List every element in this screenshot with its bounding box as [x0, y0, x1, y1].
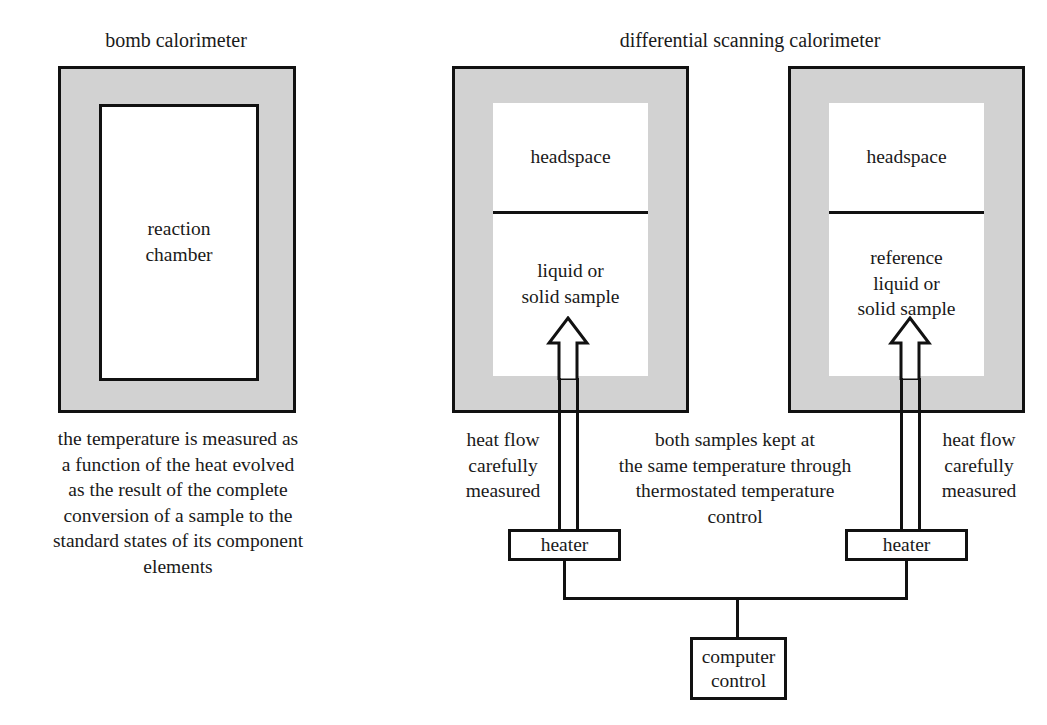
reaction-chamber-label: reaction chamber	[99, 216, 259, 267]
computer-control-label-line1: computer	[702, 645, 776, 669]
center-note-line: both samples kept at	[590, 427, 880, 453]
reaction-chamber-label-line2: chamber	[99, 242, 259, 268]
reference-heat-flow-arrow	[888, 316, 932, 380]
computer-control-label-line2: control	[702, 669, 776, 693]
reference-heater-to-bus-wire	[905, 561, 908, 600]
annotation-line: measured	[452, 478, 554, 504]
reference-heater-box: heater	[845, 529, 968, 561]
dsc-reference-label-line2: liquid or	[824, 271, 989, 297]
caption-line: standard states of its component	[8, 528, 348, 554]
dsc-reference-sample-label: reference liquid or solid sample	[824, 245, 989, 322]
sample-heat-flow-arrow	[546, 316, 590, 380]
sample-heater-label: heater	[541, 533, 589, 557]
sample-heat-flow-annotation: heat flow carefully measured	[452, 427, 554, 504]
annotation-line: heat flow	[452, 427, 554, 453]
dsc-sample-label-line2: solid sample	[488, 284, 653, 310]
calorimeter-diagram: bomb calorimeter reaction chamber the te…	[0, 0, 1047, 725]
annotation-line: carefully	[928, 453, 1030, 479]
dsc-title: differential scanning calorimeter	[560, 28, 940, 52]
dsc-reference-cell-divider	[829, 211, 984, 214]
center-note-line: control	[590, 504, 880, 530]
reaction-chamber-label-line1: reaction	[99, 216, 259, 242]
dsc-center-note: both samples kept at the same temperatur…	[590, 427, 880, 529]
dsc-sample-cell-divider	[493, 211, 648, 214]
bus-to-computer-wire	[736, 597, 739, 640]
dsc-reference-headspace-label: headspace	[829, 144, 984, 170]
annotation-line: carefully	[452, 453, 554, 479]
reference-heater-label: heater	[883, 533, 931, 557]
dsc-sample-label-line1: liquid or	[488, 258, 653, 284]
annotation-line: measured	[928, 478, 1030, 504]
sample-heater-to-bus-wire	[563, 561, 566, 600]
annotation-line: heat flow	[928, 427, 1030, 453]
reference-heat-flow-shaft-left	[900, 378, 903, 530]
bomb-calorimeter-title: bomb calorimeter	[34, 28, 318, 52]
caption-line: elements	[8, 554, 348, 580]
computer-control-label: computer control	[702, 645, 776, 693]
dsc-sample-label: liquid or solid sample	[488, 258, 653, 309]
caption-line: conversion of a sample to the	[8, 503, 348, 529]
center-note-line: thermostated temperature	[590, 478, 880, 504]
dsc-reference-label-line1: reference	[824, 245, 989, 271]
dsc-sample-headspace-label: headspace	[493, 144, 648, 170]
computer-control-box: computer control	[690, 637, 787, 700]
caption-line: as the result of the complete	[8, 477, 348, 503]
sample-heat-flow-shaft-left	[558, 378, 561, 530]
reference-heat-flow-annotation: heat flow carefully measured	[928, 427, 1030, 504]
sample-heat-flow-shaft-right	[576, 378, 579, 530]
bomb-calorimeter-caption: the temperature is measured as a functio…	[8, 426, 348, 579]
center-note-line: the same temperature through	[590, 453, 880, 479]
caption-line: a function of the heat evolved	[8, 452, 348, 478]
sample-heater-box: heater	[508, 529, 621, 561]
caption-line: the temperature is measured as	[8, 426, 348, 452]
reference-heat-flow-shaft-right	[918, 378, 921, 530]
